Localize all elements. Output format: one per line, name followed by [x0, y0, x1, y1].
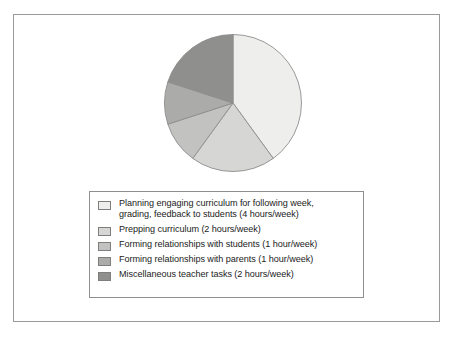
- legend-item: Miscellaneous teacher tasks (2 hours/wee…: [98, 269, 356, 281]
- legend-swatch-icon: [98, 242, 111, 251]
- legend-item: Planning engaging curriculum for followi…: [98, 198, 356, 221]
- pie-chart: [163, 33, 303, 173]
- legend-swatch-icon: [98, 257, 111, 266]
- legend-swatch-icon: [98, 227, 111, 236]
- legend-swatch-icon: [98, 272, 111, 281]
- legend-item-label: Prepping curriculum (2 hours/week): [119, 224, 261, 235]
- legend-item-label: Planning engaging curriculum for followi…: [119, 198, 314, 221]
- legend-item-label: Forming relationships with students (1 h…: [119, 239, 317, 250]
- pie-slice-group: [164, 35, 301, 172]
- legend-item-label: Forming relationships with parents (1 ho…: [119, 254, 313, 265]
- pie-chart-svg: [163, 33, 303, 173]
- chart-legend: Planning engaging curriculum for followi…: [89, 191, 364, 298]
- legend-item: Forming relationships with parents (1 ho…: [98, 254, 356, 266]
- legend-item-label: Miscellaneous teacher tasks (2 hours/wee…: [119, 269, 294, 280]
- legend-item: Forming relationships with students (1 h…: [98, 239, 356, 251]
- legend-item: Prepping curriculum (2 hours/week): [98, 224, 356, 236]
- chart-frame: Planning engaging curriculum for followi…: [13, 14, 440, 322]
- legend-swatch-icon: [98, 201, 111, 210]
